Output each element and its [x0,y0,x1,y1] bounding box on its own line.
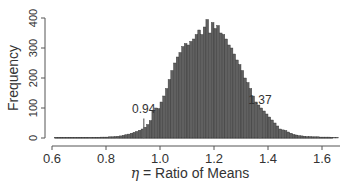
histogram-bar [228,45,231,138]
histogram-bar [284,131,287,139]
histogram-bar [233,54,236,138]
histogram-bar [117,136,120,138]
histogram-bar [279,129,282,138]
histogram-bar [241,71,244,139]
histogram-bar [128,134,131,138]
histogram-bar [244,78,247,138]
histogram-bar [192,39,195,138]
histogram-bar [333,137,336,138]
y-axis-label: Frequency [5,45,21,111]
histogram-bar [130,133,133,138]
histogram-bars [55,20,339,139]
x-tick-label: 0.6 [43,151,61,166]
histogram-bar [287,132,290,138]
histogram-bar [290,133,293,138]
histogram-bar [217,26,220,139]
histogram-bar [273,123,276,138]
histogram-bar [57,137,60,138]
histogram-bar [184,44,187,139]
histogram-bar [214,29,217,139]
histogram-bar [306,137,309,139]
histogram-bar [300,136,303,138]
histogram-bar [133,132,136,138]
histogram-bar [174,63,177,138]
histogram-bar [211,23,214,139]
y-tick-label: 200 [27,69,39,87]
histogram-bar [109,137,112,138]
histogram-bar [82,137,85,138]
histogram-bar [63,137,66,138]
histogram-bar [157,109,160,138]
histogram-bar [103,137,106,138]
histogram-bar [330,137,333,138]
histogram-bar [95,137,98,138]
histogram-bar [322,137,325,138]
histogram-bar [138,130,141,138]
histogram-bar [84,137,87,138]
histogram-bar [238,65,241,139]
histogram-bar [309,137,312,139]
y-axis: 0100200300400 [27,9,45,141]
x-tick-label: 1.6 [313,151,331,166]
histogram-bar [74,137,77,138]
histogram-bar [79,137,82,138]
histogram-bar [120,136,123,138]
histogram-bar [225,39,228,138]
x-tick-label: 1.2 [205,151,223,166]
histogram-bar [201,35,204,139]
histogram-bar [111,137,114,138]
histogram-bar [122,135,125,138]
x-axis: 0.60.81.01.21.41.6 [43,146,340,166]
histogram-bar [71,137,74,138]
histogram-bar [125,135,128,138]
histogram-bar [179,53,182,139]
histogram-bar [190,41,193,138]
histogram-chart: 0100200300400 0.60.81.01.21.41.6 0.941.3… [0,0,353,185]
histogram-bar [219,33,222,138]
histogram-bar [176,57,179,138]
histogram-bar [60,137,63,138]
histogram-bar [106,137,109,138]
histogram-bar [203,27,206,138]
histogram-bar [295,135,298,138]
histogram-bar [276,126,279,138]
histogram-bar [87,137,90,138]
histogram-bar [336,137,339,138]
histogram-bar [136,131,139,138]
histogram-bar [165,89,168,139]
histogram-bar [311,137,314,138]
interval-marker-label: 1.37 [248,93,272,107]
histogram-bar [271,120,274,138]
interval-marker-label: 0.94 [132,102,156,116]
histogram-bar [147,125,150,139]
histogram-bar [319,137,322,138]
x-tick-label: 0.8 [97,151,115,166]
histogram-bar [171,71,174,139]
histogram-bar [246,83,249,139]
histogram-bar [317,137,320,138]
histogram-bar [101,137,104,138]
histogram-bar [163,96,166,138]
y-tick-label: 0 [27,135,39,141]
histogram-bar [187,45,190,138]
histogram-bar [236,60,239,138]
histogram-bar [114,137,117,139]
histogram-bar [298,136,301,138]
histogram-bar [198,30,201,138]
histogram-bar [282,130,285,138]
histogram-bar [195,35,198,139]
histogram-bar [68,137,71,138]
histogram-bar [325,137,328,138]
histogram-bar [168,80,171,139]
histogram-bar [55,137,58,138]
histogram-bar [222,35,225,139]
histogram-bar [255,102,258,138]
histogram-bar [292,134,295,138]
histogram-bar [90,137,93,138]
histogram-bar [98,137,101,138]
histogram-bar [160,102,163,138]
y-tick-label: 400 [27,9,39,27]
histogram-bar [230,48,233,138]
histogram-bar [327,137,330,138]
histogram-bar [265,114,268,138]
